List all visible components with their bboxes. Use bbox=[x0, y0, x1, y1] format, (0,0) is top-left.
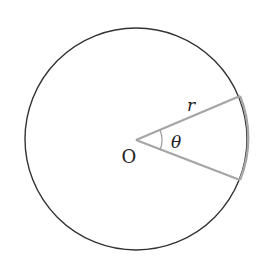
angle-label: θ bbox=[171, 132, 181, 152]
center-label: O bbox=[122, 146, 137, 167]
circle-sector-diagram: O r θ bbox=[0, 0, 268, 264]
angle-marker-arc bbox=[160, 130, 162, 150]
radius-label: r bbox=[187, 95, 196, 115]
diagram-canvas: O r θ bbox=[0, 0, 268, 264]
radius-lower bbox=[136, 140, 240, 180]
